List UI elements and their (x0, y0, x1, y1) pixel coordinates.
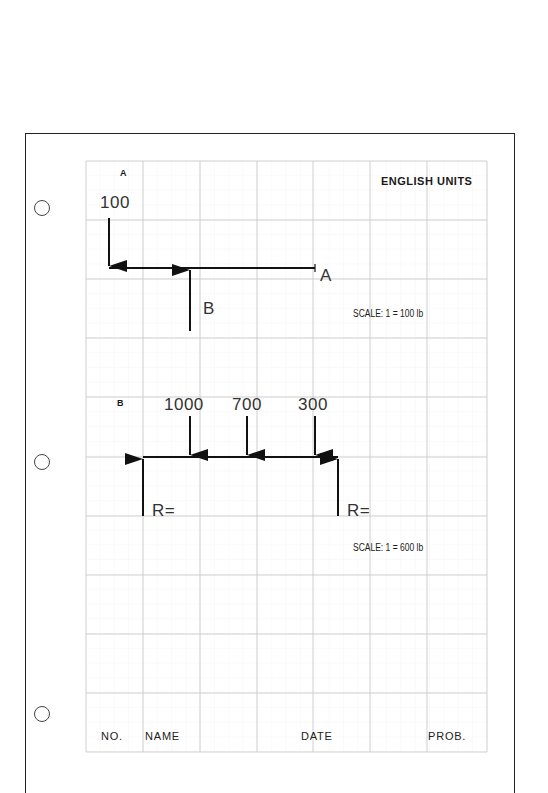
footer-no-label: NO. (101, 731, 123, 742)
footer-date-label: DATE (301, 731, 333, 742)
load-label-300: 300 (298, 396, 328, 413)
reaction-label-b: B (203, 300, 214, 317)
load-label-700: 700 (232, 396, 262, 413)
load-label-100: 100 (100, 194, 130, 211)
units-title: ENGLISH UNITS (381, 176, 472, 187)
scale-label-b: SCALE: 1 = 600 lb (353, 543, 423, 553)
problem-b-label: B (117, 399, 124, 408)
reaction-left-label: R= (152, 502, 175, 519)
scale-label-a: SCALE: 1 = 100 lb (353, 309, 423, 319)
reaction-right-label: R= (347, 502, 370, 519)
load-label-1000: 1000 (164, 396, 204, 413)
problem-a-label: A (120, 169, 127, 178)
footer-prob-label: PROB. (428, 731, 466, 742)
beam-end-label-a: A (320, 267, 331, 284)
footer-name-label: NAME (145, 731, 180, 742)
